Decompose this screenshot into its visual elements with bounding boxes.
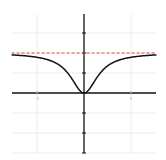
x-tick-label: -5 [35,96,39,101]
function-plot: -55 [0,0,166,160]
plot-canvas: -55 [0,0,166,160]
axes [12,14,156,153]
x-tick-label: 5 [130,96,133,101]
